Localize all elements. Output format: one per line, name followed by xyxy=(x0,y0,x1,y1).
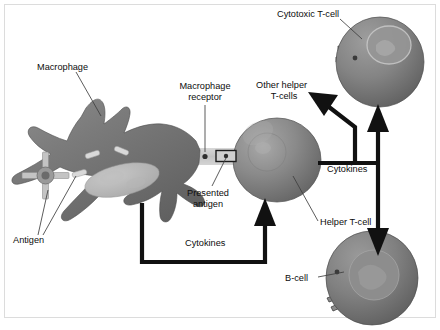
label-macrophage: Macrophage xyxy=(37,62,88,72)
cytokines-feedback-arrowhead xyxy=(254,198,276,226)
label-other-helper-line1: Other helper xyxy=(256,80,307,90)
label-presented-antigen-line2: antigen xyxy=(193,199,223,209)
cytokines-up-arrowhead xyxy=(367,104,389,132)
label-macrophage-receptor-line2: receptor xyxy=(188,92,222,102)
helper-tcell xyxy=(233,116,321,202)
label-cytokines-right: Cytokines xyxy=(327,164,368,174)
antigen-cross-arm-right xyxy=(53,173,69,179)
label-bcell: B-cell xyxy=(285,273,308,283)
antigen-cross-arm-left xyxy=(22,173,38,179)
cytotoxic-tcell xyxy=(336,17,424,107)
label-cytotoxic-tcell: Cytotoxic T-cell xyxy=(277,9,339,19)
label-macrophage-receptor-line1: Macrophage xyxy=(179,81,230,91)
antigen-cross-core-inner xyxy=(42,172,50,180)
presented-antigen-dot xyxy=(224,154,228,158)
label-presented-antigen-line1: Presented xyxy=(187,188,229,198)
label-helper-tcell: Helper T-cell xyxy=(320,217,371,227)
antigen-cross-arm-top xyxy=(43,152,49,168)
macrophage-cell xyxy=(12,99,205,222)
macrophage-body xyxy=(12,99,205,222)
macrophage-receptor-dot xyxy=(202,154,207,159)
label-cytokines-bottom: Cytokines xyxy=(185,238,226,248)
immune-response-diagram: Macrophage Macrophage receptor Presented… xyxy=(0,0,440,330)
cytokines-branch-other-helper xyxy=(329,107,355,163)
cytokines-distribution xyxy=(308,92,389,256)
label-other-helper-line2: T-cells xyxy=(271,91,298,101)
bcell xyxy=(326,231,418,325)
cytotoxic-tcell-spot xyxy=(353,56,358,61)
label-antigen: Antigen xyxy=(13,235,44,245)
